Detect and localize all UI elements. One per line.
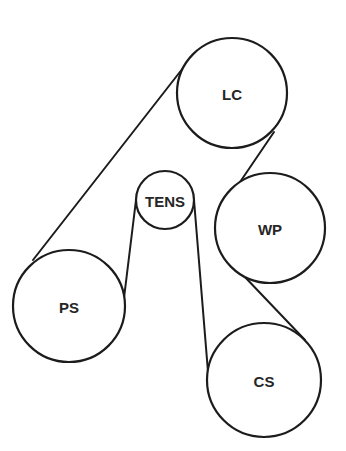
belt-segment-tens-ps [124, 200, 136, 298]
belt-segment-cs-tens [194, 200, 208, 372]
pulley-label-wp: WP [258, 221, 282, 238]
pulley-label-cs: CS [254, 373, 275, 390]
pulley-label-tens: TENS [145, 193, 185, 210]
belt-segment-ps-lc [33, 68, 183, 260]
pulley-label-ps: PS [59, 299, 79, 316]
pulley-wp: WP [215, 173, 325, 283]
belt-routing-diagram: LC TENS WP PS CS [0, 0, 346, 451]
pulley-ps: PS [13, 250, 125, 362]
pulley-lc: LC [177, 38, 287, 148]
pulley-tens: TENS [136, 171, 194, 229]
pulley-cs: CS [207, 323, 321, 437]
pulley-label-lc: LC [222, 86, 242, 103]
